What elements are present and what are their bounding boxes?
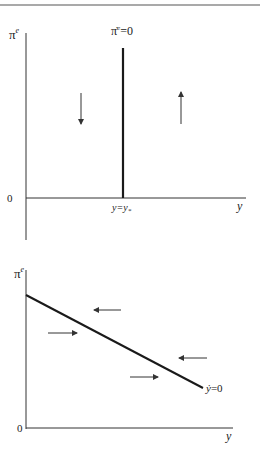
bottom-origin-label: 0 [17, 422, 23, 434]
bottom-diagram: πe ẏ=0 0 y [14, 265, 233, 443]
bottom-y-axis-label: πe [14, 265, 25, 281]
y-dot-zero-locus [26, 295, 203, 388]
y-equals-y-star-label: y=y* [111, 202, 132, 215]
top-diagram: πe π̇e=0 0 y=y* y [7, 24, 246, 240]
bottom-x-axis-label: y [225, 429, 232, 443]
pi-dot-zero-label: π̇e=0 [111, 24, 133, 38]
top-origin-label: 0 [7, 192, 13, 204]
top-y-axis-label: πe [9, 26, 20, 42]
phase-diagrams: πe π̇e=0 0 y=y* y πe ẏ=0 0 y [0, 0, 260, 451]
y-dot-zero-label: ẏ=0 [205, 382, 223, 394]
top-x-axis-label: y [236, 199, 243, 213]
